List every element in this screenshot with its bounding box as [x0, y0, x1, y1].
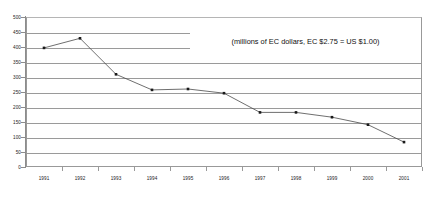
data-point [295, 111, 298, 114]
series-line [44, 38, 404, 142]
data-point [331, 116, 334, 119]
data-point [79, 37, 82, 40]
line-chart: 050100150200250300350400450500 199119921… [0, 0, 432, 205]
data-point [43, 47, 46, 50]
data-point [151, 89, 154, 92]
data-point [259, 111, 262, 114]
data-series [0, 0, 432, 205]
data-point [223, 92, 226, 95]
series-markers [43, 37, 406, 143]
data-point [403, 141, 406, 144]
data-point [187, 88, 190, 91]
data-point [115, 73, 118, 76]
chart-screenshot: 050100150200250300350400450500 199119921… [0, 0, 432, 205]
currency-annotation: (millions of EC dollars, EC $2.75 = US $… [190, 33, 421, 50]
annotation-text: (millions of EC dollars, EC $2.75 = US $… [231, 37, 379, 46]
data-point [367, 123, 370, 126]
